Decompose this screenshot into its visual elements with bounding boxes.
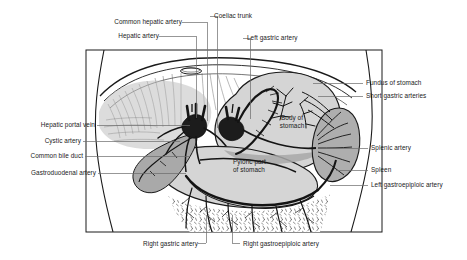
- label-hepatic-portal-vein: Hepatic portal vein: [0, 121, 95, 129]
- leader-coeliac-trunk: [210, 16, 217, 128]
- leader-common-hepatic-artery: [182, 22, 207, 121]
- label-right-gastric-artery: Right gastric artery: [98, 240, 198, 248]
- label-gastroduodenal-artery: Gastroduodenal artery: [0, 169, 96, 177]
- anatomy-figure: Common hepatic artery Hepatic artery Coe…: [0, 0, 467, 260]
- label-hepatic-artery: Hepatic artery: [62, 32, 159, 40]
- label-coeliac-trunk: Coeliac trunk: [214, 12, 252, 20]
- label-body-of-stomach-line1: Body of: [281, 114, 303, 121]
- label-left-gastric-artery: Left gastric artery: [247, 34, 298, 42]
- label-common-hepatic-artery: Common hepatic artery: [60, 18, 182, 26]
- label-pyloric-part-of-stomach: Pyloric part of stomach: [233, 158, 295, 173]
- label-splenic-artery: Splenic artery: [371, 144, 411, 152]
- label-body-of-stomach: Body of stomach: [265, 114, 319, 129]
- label-fundus-of-stomach: Fundus of stomach: [366, 79, 421, 87]
- leader-right-gastric-artery: [198, 215, 206, 243]
- label-short-gastric-arteries: Short gastric arteries: [366, 92, 426, 100]
- label-cystic-artery: Cystic artery: [0, 137, 81, 145]
- leader-hepatic-artery: [159, 36, 196, 118]
- label-pyloric-part-line2: of stomach: [233, 166, 265, 173]
- label-left-gastroepiploic-artery: Left gastroepiploic artery: [371, 181, 443, 189]
- label-pyloric-part-line1: Pyloric part: [233, 158, 266, 165]
- label-common-bile-duct: Common bile duct: [0, 152, 83, 160]
- leader-right-gastroepiploic-artery: [232, 215, 240, 243]
- leader-left-gastric-artery: [243, 38, 250, 119]
- label-right-gastroepiploic-artery: Right gastroepiploic artery: [243, 240, 319, 248]
- label-body-of-stomach-line2: stomach: [280, 122, 305, 129]
- label-spleen: Spleen: [371, 166, 391, 174]
